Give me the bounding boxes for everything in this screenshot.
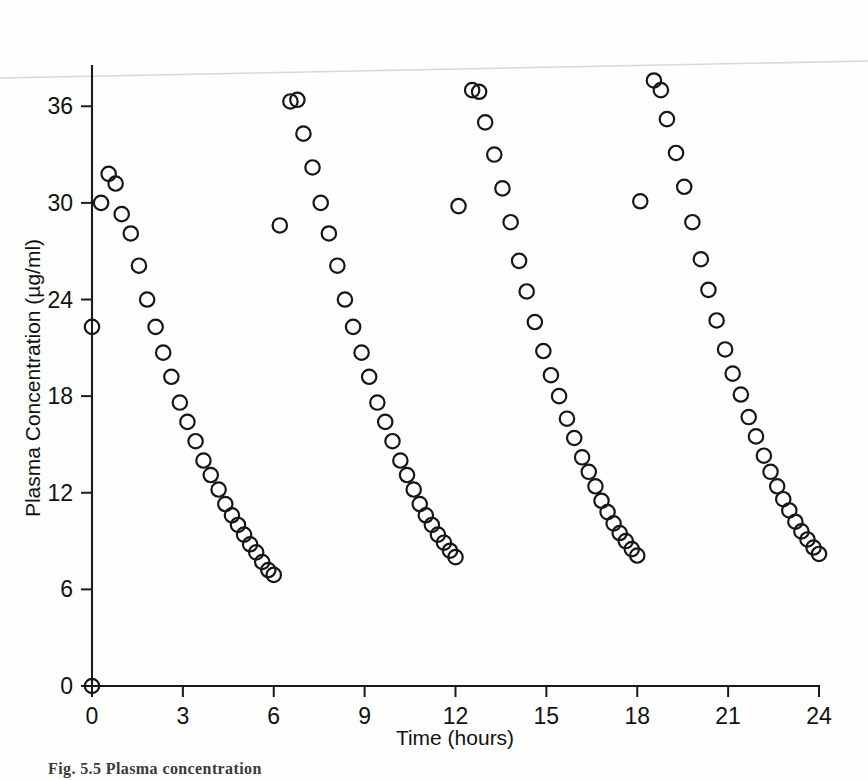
data-point-marker (536, 344, 550, 358)
x-tick-label: 0 (86, 703, 99, 729)
data-point-marker (757, 449, 771, 463)
data-point-marker (528, 315, 542, 329)
data-point-marker (512, 254, 526, 268)
data-point-marker (314, 196, 328, 210)
x-tick-label: 24 (806, 703, 832, 729)
y-tick-label: 18 (47, 383, 73, 409)
data-point-marker (763, 465, 777, 479)
data-point-marker (400, 468, 414, 482)
data-point-marker (296, 126, 310, 140)
x-axis-title: Time (hours) (396, 726, 514, 749)
data-point-marker (478, 115, 492, 129)
data-point-marker (701, 283, 715, 297)
data-point-group (85, 73, 826, 693)
data-point-marker (451, 199, 465, 213)
data-point-marker (544, 368, 558, 382)
plasma-concentration-chart: 061218243036 03691215182124 Plasma Conce… (0, 0, 868, 780)
data-point-marker (660, 112, 674, 126)
data-point-marker (552, 389, 566, 403)
x-tick-label: 18 (624, 703, 650, 729)
x-tick-label: 6 (267, 703, 280, 729)
data-point-marker (406, 482, 420, 496)
data-point-marker (101, 167, 115, 181)
data-point-marker (685, 215, 699, 229)
data-point-marker (114, 207, 128, 221)
data-point-marker (669, 146, 683, 160)
data-point-marker (749, 429, 763, 443)
data-point-marker (322, 226, 336, 240)
y-axis-ticks: 061218243036 (47, 93, 92, 699)
data-point-marker (305, 160, 319, 174)
figure-caption: Fig. 5.5 Plasma concentration (48, 762, 262, 778)
data-point-marker (575, 450, 589, 464)
y-tick-label: 36 (47, 93, 73, 119)
data-point-marker (330, 258, 344, 272)
data-point-marker (393, 453, 407, 467)
data-point-marker (354, 345, 368, 359)
data-point-marker (495, 181, 509, 195)
data-point-marker (647, 73, 661, 87)
data-point-marker (180, 415, 194, 429)
data-point-marker (94, 196, 108, 210)
chart-axes (92, 66, 819, 686)
data-point-marker (677, 180, 691, 194)
data-point-marker (164, 370, 178, 384)
x-axis-ticks: 03691215182124 (86, 686, 832, 729)
figure-caption-clip: Fig. 5.5 Plasma concentration (0, 762, 868, 780)
data-point-marker (725, 366, 739, 380)
y-tick-label: 0 (60, 673, 73, 699)
figure-container: 061218243036 03691215182124 Plasma Conce… (0, 0, 868, 780)
x-tick-label: 9 (358, 703, 371, 729)
data-point-marker (582, 465, 596, 479)
data-point-marker (173, 395, 187, 409)
data-point-marker (560, 411, 574, 425)
data-point-marker (370, 395, 384, 409)
data-point-marker (346, 320, 360, 334)
data-point-marker (694, 252, 708, 266)
y-tick-label: 12 (47, 480, 73, 506)
data-point-marker (588, 479, 602, 493)
data-point-marker (156, 345, 170, 359)
y-tick-label: 6 (60, 576, 73, 602)
data-point-marker (734, 387, 748, 401)
data-point-marker (108, 176, 122, 190)
page-edge-scan-line (0, 61, 868, 78)
data-point-marker (709, 313, 723, 327)
data-point-marker (633, 194, 647, 208)
data-point-marker (385, 434, 399, 448)
data-point-marker (338, 292, 352, 306)
y-tick-label: 30 (47, 190, 73, 216)
data-point-marker (132, 258, 146, 272)
data-point-marker (519, 284, 533, 298)
y-axis-title: Plasma Concentration (µg/ml) (21, 239, 44, 517)
data-point-marker (742, 410, 756, 424)
data-point-marker (362, 370, 376, 384)
data-point-marker (487, 147, 501, 161)
data-point-marker (273, 218, 287, 232)
data-point-marker (654, 83, 668, 97)
data-point-marker (503, 215, 517, 229)
x-tick-label: 3 (176, 703, 189, 729)
data-point-marker (718, 342, 732, 356)
data-point-marker (124, 226, 138, 240)
data-point-marker (378, 415, 392, 429)
data-point-marker (148, 320, 162, 334)
data-point-marker (567, 431, 581, 445)
x-tick-label: 15 (534, 703, 560, 729)
x-tick-label: 21 (715, 703, 741, 729)
data-point-marker (188, 434, 202, 448)
data-point-marker (204, 468, 218, 482)
data-point-marker (211, 482, 225, 496)
y-tick-label: 24 (47, 287, 73, 313)
data-point-marker (196, 453, 210, 467)
data-point-marker (140, 292, 154, 306)
